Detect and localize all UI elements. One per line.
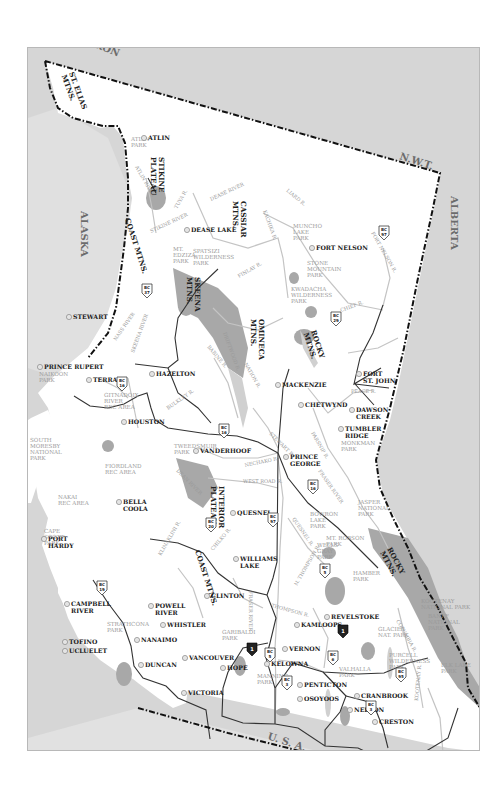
city-label: BELLACOOLA [123,498,148,512]
city-label: MACKENZIE [282,381,327,388]
city-marker-icon[interactable] [204,593,209,598]
city-marker-icon[interactable] [62,648,67,653]
city-label: HOPE [227,664,248,671]
city-marker-icon[interactable] [282,646,287,651]
city-label: PENTICTON [304,681,347,688]
city-label: QUESNEL [237,509,272,517]
city-label: TOFINO [69,638,98,645]
map-frame: YUKONN.W.T.ALBERTAALASKAU. S. A.ATLINPAR… [27,47,480,751]
region-label-alberta: ALBERTA [449,195,460,250]
city-marker-icon[interactable] [181,690,186,695]
city-marker-icon[interactable] [121,419,126,424]
city-marker-icon[interactable] [298,402,303,407]
city-marker-icon[interactable] [233,556,238,561]
svg-text:1: 1 [341,628,345,634]
city-marker-icon[interactable] [66,314,71,319]
mountain-range-label: STIKINEPLATEAU [149,157,166,196]
river-label: PEACE R. [351,388,376,394]
svg-text:1: 1 [250,646,254,652]
svg-text:16: 16 [119,383,125,388]
city-label: DEASE LAKE [191,226,237,233]
city-label: HAZELTON [156,370,196,377]
city-label: UCLUELET [69,647,108,654]
river-label: WEST ROAD R. [243,478,283,484]
city-marker-icon[interactable] [338,426,343,431]
city-marker-icon[interactable] [64,601,69,606]
city-label: CRESTON [379,718,414,725]
city-marker-icon[interactable] [297,696,302,701]
city-marker-icon[interactable] [184,227,189,232]
city-marker-icon[interactable] [141,135,146,140]
city-marker-icon[interactable] [283,454,288,459]
city-marker-icon[interactable] [349,407,354,412]
city-label: CLINTON [211,592,245,599]
city-label: KAMLOOPS [301,621,343,628]
city-marker-icon[interactable] [148,603,153,608]
city-label: CRANBROOK [361,692,409,699]
city-label: KELOWNA [271,660,308,667]
city-marker-icon[interactable] [230,510,235,515]
city-label: CHETWYND [305,401,348,408]
city-marker-icon[interactable] [149,371,154,376]
city-marker-icon[interactable] [160,622,165,627]
city-marker-icon[interactable] [309,245,314,250]
city-label: WHISTLER [166,621,207,628]
city-marker-icon[interactable] [37,364,42,369]
city-marker-icon[interactable] [86,377,91,382]
svg-text:5: 5 [269,654,272,659]
river-label: FRASER RIVER [248,591,254,631]
city-label: VICTORIA [187,689,224,696]
city-marker-icon[interactable] [294,622,299,627]
city-label: PRINCE RUPERT [44,363,104,370]
city-marker-icon[interactable] [220,665,225,670]
city-marker-icon[interactable] [324,614,329,619]
city-marker-icon[interactable] [138,662,143,667]
city-label: NANAIMO [141,636,178,643]
svg-text:37: 37 [144,290,150,295]
city-label: REVELSTOKE [331,613,380,620]
svg-text:16: 16 [310,486,316,491]
city-marker-icon[interactable] [134,637,139,642]
city-label: VANDERHOOF [199,447,252,454]
city-marker-icon[interactable] [356,371,361,376]
city-label: VERNON [288,645,321,652]
city-label: VANCOUVER [188,654,235,661]
city-label: FORT NELSON [316,244,368,251]
city-label: PRINCEGEORGE [290,453,321,467]
svg-text:6: 6 [332,657,335,662]
city-label: DUNCAN [145,661,177,668]
city-marker-icon[interactable] [347,707,352,712]
svg-text:5: 5 [324,570,327,575]
city-marker-icon[interactable] [297,682,302,687]
svg-text:95: 95 [398,674,404,679]
city-marker-icon[interactable] [264,661,269,666]
city-marker-icon[interactable] [41,536,46,541]
svg-text:3: 3 [370,707,373,712]
svg-text:29: 29 [333,318,339,323]
city-label: STEWART [73,313,108,320]
city-marker-icon[interactable] [62,639,67,644]
region-label-alaska: ALASKA [79,210,90,257]
city-marker-icon[interactable] [116,499,121,504]
city-label: ATLIN [147,134,170,141]
city-label: OSOYOOS [304,695,339,702]
svg-text:19: 19 [99,587,105,592]
city-label: HOUSTON [128,418,165,425]
city-marker-icon[interactable] [193,448,198,453]
city-marker-icon[interactable] [372,719,377,724]
svg-text:16: 16 [221,430,227,435]
svg-text:97: 97 [270,519,276,524]
svg-text:97: 97 [381,232,387,237]
svg-text:3: 3 [286,682,289,687]
svg-text:20: 20 [208,524,214,529]
city-marker-icon[interactable] [275,382,280,387]
city-marker-icon[interactable] [354,693,359,698]
bc-map: YUKONN.W.T.ALBERTAALASKAU. S. A.ATLINPAR… [28,48,480,751]
city-marker-icon[interactable] [182,655,187,660]
